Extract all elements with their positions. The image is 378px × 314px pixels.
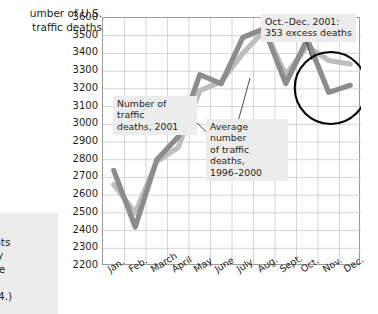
y-tick-label: 3200 [58, 83, 98, 93]
y-tick-label: 2500 [58, 207, 98, 217]
callout-excess-deaths: Oct.–Dec. 2001: 353 excess deaths [261, 14, 356, 42]
y-tick-label: 3000 [58, 118, 98, 128]
y-tick-label: 3600 [58, 12, 98, 22]
y-tick-label: 2300 [58, 242, 98, 252]
x-axis-tick-labels: Jan.Feb.MarchAprilMayJuneJulyAug.Sept.Oc… [102, 266, 364, 312]
y-tick-label: 2800 [58, 154, 98, 164]
y-tick-label: 3100 [58, 101, 98, 111]
y-tick-label: 2400 [58, 225, 98, 235]
y-tick-label: 2900 [58, 136, 98, 146]
callout-series-average: Average number of traffic deaths, 1996–2… [206, 119, 288, 181]
y-tick-label: 3300 [58, 65, 98, 75]
y-tick-label: 3400 [58, 47, 98, 57]
side-note-text: rper flights adily n the eri- 2004.) [0, 213, 58, 314]
y-tick-label: 3500 [58, 30, 98, 40]
y-tick-label: 2200 [58, 260, 98, 270]
y-tick-label: 2600 [58, 189, 98, 199]
y-tick-label: 2700 [58, 171, 98, 181]
callout-series-2001: Number of traffic deaths, 2001 [113, 96, 197, 135]
y-axis-tick-labels: 3600350034003300320031003000290028002700… [56, 0, 98, 313]
